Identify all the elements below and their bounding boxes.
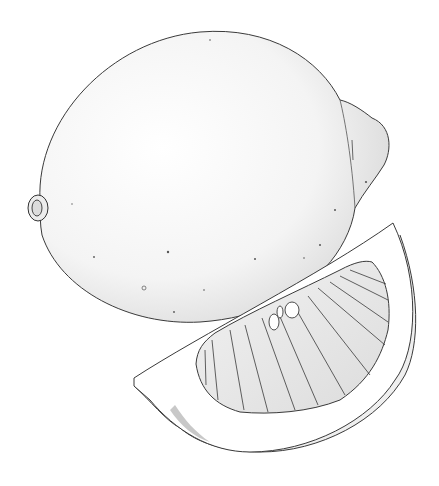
illustration-canvas: Pencil illustration of a whole lemon and… xyxy=(0,0,439,486)
lemon-illustration xyxy=(0,0,439,486)
stem-end xyxy=(28,195,48,221)
